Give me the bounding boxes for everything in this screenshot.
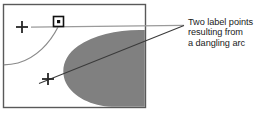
annotation-caption-line-1: Two label points	[188, 17, 255, 27]
node-center-dot	[57, 20, 60, 23]
figure-container: Two label points resulting from a dangli…	[0, 0, 255, 114]
annotation-caption-line-2: resulting from	[188, 27, 255, 37]
annotation-caption-line-3: a dangling arc	[188, 38, 255, 48]
node-square-marker	[54, 17, 64, 27]
annotation-caption: Two label points resulting from a dangli…	[188, 17, 255, 48]
